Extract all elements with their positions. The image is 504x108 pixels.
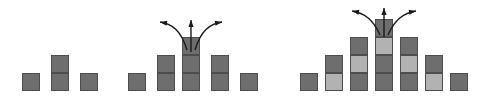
block (350, 73, 368, 91)
block (182, 55, 200, 73)
block (400, 55, 418, 73)
block (375, 73, 393, 91)
block (425, 55, 443, 73)
block (400, 73, 418, 91)
block (300, 73, 318, 91)
block (22, 73, 40, 91)
block (375, 55, 393, 73)
block (128, 73, 146, 91)
block (325, 73, 343, 91)
block (211, 73, 229, 91)
block (182, 73, 200, 91)
block (375, 19, 393, 37)
block (51, 73, 69, 91)
block (400, 37, 418, 55)
block (157, 73, 175, 91)
block (375, 37, 393, 55)
block (240, 73, 258, 91)
block (350, 55, 368, 73)
block (350, 37, 368, 55)
arrows-layer (0, 0, 504, 108)
block (325, 55, 343, 73)
block (425, 73, 443, 91)
block (211, 55, 229, 73)
block (51, 55, 69, 73)
block (157, 55, 175, 73)
block (182, 37, 200, 55)
block (80, 73, 98, 91)
block (450, 73, 468, 91)
toppling-diagram (0, 0, 504, 108)
